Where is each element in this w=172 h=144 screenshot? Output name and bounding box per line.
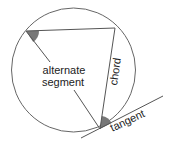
alternate-segment-diagram: alternate segment chord tangent [0, 0, 172, 144]
label-segment: segment [42, 76, 84, 88]
label-chord: chord [107, 57, 123, 86]
label-tangent: tangent [108, 107, 146, 133]
triangle-top-side [26, 28, 115, 31]
leader-line-lower [74, 90, 100, 129]
label-alternate: alternate [43, 64, 86, 76]
